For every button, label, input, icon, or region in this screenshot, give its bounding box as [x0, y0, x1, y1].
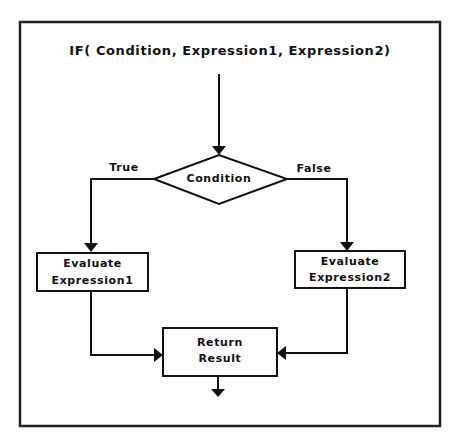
flowchart-canvas	[0, 0, 455, 440]
false-branch-arrowhead	[340, 242, 354, 251]
evaluate-expression1-line1: Evaluate	[37, 258, 148, 269]
evaluate-expression2-line1: Evaluate	[295, 256, 405, 267]
expression1-to-result-line	[91, 291, 154, 355]
evaluate-expression2-line2: Expression2	[295, 272, 405, 283]
return-result-line1: Return	[163, 337, 277, 348]
true-branch-arrowhead	[84, 243, 98, 252]
expression1-to-result-arrowhead	[154, 348, 163, 362]
true-branch-label: True	[104, 162, 144, 173]
diagram-title: IF( Condition, Expression1, Expression2)	[20, 44, 440, 57]
entry-arrowhead	[212, 146, 226, 155]
true-branch-line	[91, 179, 154, 243]
evaluate-expression1-line2: Expression1	[37, 275, 148, 286]
output-arrowhead	[211, 389, 225, 397]
return-result-line2: Result	[163, 353, 277, 364]
false-branch-line	[287, 179, 347, 242]
expression2-to-result-line	[286, 288, 347, 353]
decision-label: Condition	[169, 173, 269, 184]
false-branch-label: False	[292, 163, 336, 174]
expression2-to-result-arrowhead	[277, 346, 286, 360]
